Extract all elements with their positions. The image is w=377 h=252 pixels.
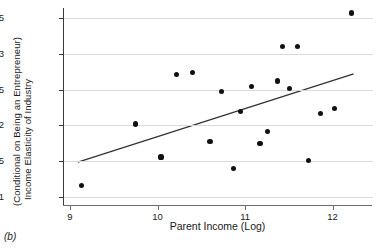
y-axis-tick [59,197,64,198]
x-axis-tick [70,205,71,210]
x-axis-title: Parent Income (Log) [63,220,372,232]
data-point [207,139,212,144]
x-axis-tick [333,205,334,210]
gridline-horizontal [63,54,373,55]
y-axis-title: Income Elasticity of Industry (Condition… [0,0,34,210]
y-axis-tick-label: 1.3 [0,48,4,59]
gridline-horizontal [63,161,373,162]
y-axis-tick [59,161,64,162]
y-axis-title-line-2: (Conditional on Being an Entrepreneur) [11,37,22,206]
data-point [275,78,280,83]
y-axis-tick [59,54,64,55]
y-axis-tick-label: 1.2 [0,119,4,130]
plot-area: 1.11.151.21.251.31.359101112 [63,8,372,205]
y-axis-tick [59,90,64,91]
x-axis-tick [245,205,246,210]
y-axis-tick-label: 1.25 [0,84,4,95]
gridline-horizontal [63,125,373,126]
data-point [332,106,337,111]
data-point [133,121,138,126]
scatter-plot-figure: Income Elasticity of Industry (Condition… [0,0,377,252]
y-axis-tick-label: 1.15 [0,155,4,166]
y-axis-tick-label: 1.1 [0,191,4,202]
regression-line [63,8,372,205]
data-point [158,154,163,159]
gridline-horizontal [63,18,373,19]
data-point [219,89,224,94]
x-axis-line [63,205,372,206]
y-axis-title-line-1: Income Elasticity of Industry [22,79,33,200]
x-axis-tick [158,205,159,210]
y-axis-tick-label: 1.35 [0,12,4,23]
panel-caption: (b) [4,231,16,242]
data-point [318,111,323,116]
data-point [257,141,262,146]
y-axis-tick [59,18,64,19]
gridline-horizontal [63,197,373,198]
data-point [306,158,311,163]
y-axis-tick [59,125,64,126]
